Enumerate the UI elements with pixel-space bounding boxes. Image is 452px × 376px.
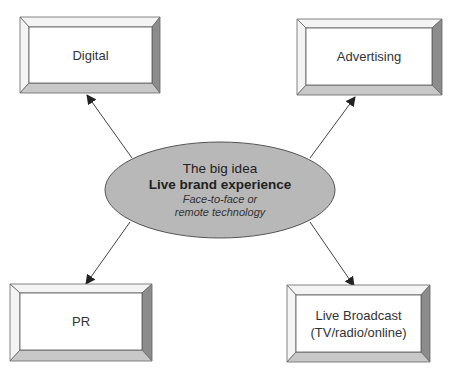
node-live-broadcast-text-line1: Live Broadcast [316, 307, 402, 324]
center-headline: Live brand experience [149, 177, 292, 193]
node-live-broadcast-label: Live Broadcast (TV/radio/online) [296, 295, 421, 352]
node-pr-text: PR [72, 313, 90, 330]
center-label: The big idea Live brand experience Face-… [105, 150, 335, 230]
node-advertising-text: Advertising [337, 48, 401, 65]
center-title: The big idea [183, 161, 257, 177]
node-digital-text: Digital [72, 47, 108, 64]
center-subtitle-line2: remote technology [175, 206, 266, 219]
node-pr-label: PR [20, 293, 142, 350]
arrow-to-advertising [310, 97, 355, 158]
node-advertising-label: Advertising [306, 28, 432, 85]
center-subtitle-line1: Face-to-face or [183, 193, 258, 206]
node-digital-label: Digital [29, 27, 152, 83]
arrow-to-digital [87, 95, 132, 158]
arrow-to-pr [86, 222, 130, 284]
node-live-broadcast-text-line2: (TV/radio/online) [310, 324, 406, 341]
arrow-to-live-broadcast [310, 222, 354, 286]
